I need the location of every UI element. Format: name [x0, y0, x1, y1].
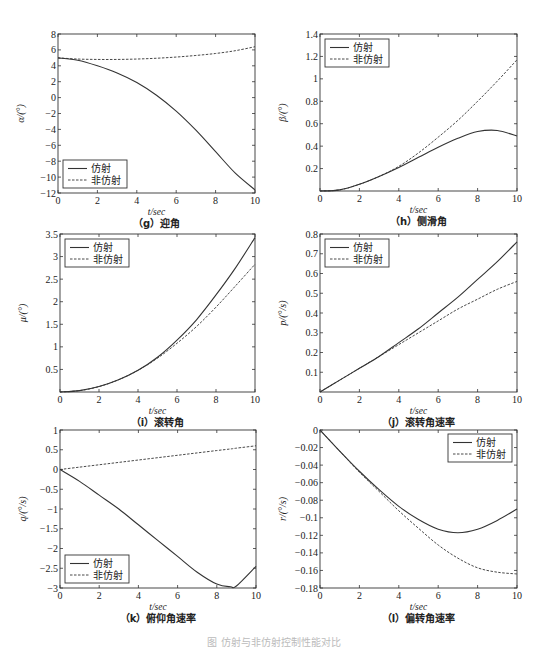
x-tick-label: 2: [97, 590, 102, 601]
subplot-caption: （l）偏转角速率: [382, 612, 455, 624]
y-tick-label: −3: [47, 583, 58, 594]
chart-k: 0246810−3−2.5−2−1.5−1−0.500.51t/secq/(°/…: [17, 425, 261, 625]
series-non-affine: [60, 264, 255, 392]
series-affine: [320, 130, 517, 191]
y-tick-label: 0.8: [306, 96, 319, 107]
y-axis-label: β/(°): [277, 103, 289, 123]
y-tick-label: −1.5: [40, 523, 58, 534]
x-tick-label: 2: [357, 394, 362, 405]
legend: 仿射非仿射: [63, 160, 127, 188]
y-tick-label: 0: [51, 92, 56, 103]
legend-label-non-affine: 非仿射: [91, 174, 121, 186]
y-axis-label: α/(°): [15, 103, 27, 122]
y-tick-label: −0.06: [295, 477, 318, 488]
legend-label-affine: 仿射: [353, 241, 373, 253]
x-tick-label: 0: [56, 195, 61, 206]
legend: 仿射非仿射: [325, 239, 389, 267]
y-tick-label: 1: [313, 73, 318, 84]
x-tick-label: 10: [250, 394, 260, 405]
x-tick-label: 10: [512, 590, 522, 601]
series-non-affine: [320, 60, 517, 191]
y-tick-label: 1.5: [46, 319, 59, 330]
subplot-caption: （k）俯仰角速率: [120, 612, 197, 624]
legend: 仿射非仿射: [65, 239, 129, 267]
y-tick-label: 2: [51, 76, 56, 87]
x-tick-label: 6: [175, 394, 180, 405]
x-tick-label: 6: [175, 590, 180, 601]
x-tick-label: 6: [436, 590, 441, 601]
y-axis-label: μ/(°): [17, 303, 29, 323]
y-tick-label: −12: [40, 188, 56, 199]
y-tick-label: −0.16: [295, 565, 318, 576]
y-tick-label: −4: [45, 124, 56, 135]
y-tick-label: −6: [45, 140, 56, 151]
x-tick-label: 8: [475, 394, 480, 405]
series-non-affine: [60, 446, 256, 470]
y-tick-label: 0.1: [306, 367, 319, 378]
y-tick-label: −0.5: [40, 484, 58, 495]
y-tick-label: −0.18: [295, 583, 318, 594]
subplot-caption: （j）滚转角速率: [382, 416, 455, 428]
x-tick-label: 0: [58, 590, 63, 601]
x-tick-label: 2: [357, 590, 362, 601]
x-tick-label: 2: [95, 195, 100, 206]
chart-j: 02468100.10.20.30.40.50.60.70.8t/secp/(°…: [277, 229, 522, 429]
x-tick-label: 4: [134, 195, 139, 206]
legend-label-non-affine: 非仿射: [353, 53, 383, 65]
x-tick-label: 8: [214, 590, 219, 601]
legend: 仿射非仿射: [448, 434, 512, 462]
series-non-affine: [320, 281, 517, 392]
y-tick-label: 6: [51, 44, 56, 55]
y-tick-label: −8: [45, 156, 56, 167]
legend-label-affine: 仿射: [353, 41, 373, 53]
y-tick-label: −10: [40, 172, 56, 183]
x-axis-label: t/sec: [148, 207, 166, 217]
y-tick-label: 0.4: [306, 141, 319, 152]
y-tick-label: 1: [53, 425, 58, 436]
y-tick-label: −0.14: [295, 547, 318, 558]
subplot-caption: （h）侧滑角: [390, 215, 447, 227]
y-tick-label: 0.8: [306, 229, 319, 240]
y-tick-label: −2.5: [40, 563, 58, 574]
x-tick-label: 6: [436, 193, 441, 204]
x-tick-label: 2: [97, 394, 102, 405]
y-tick-label: 0.2: [306, 163, 319, 174]
subplot-caption: （i）滚转角: [131, 416, 184, 428]
y-tick-label: 0.6: [306, 268, 319, 279]
chart-i: 02468100.511.522.533.5t/secμ/(°)（i）滚转角仿射…: [17, 229, 260, 429]
x-tick-label: 0: [58, 394, 63, 405]
x-tick-label: 8: [214, 394, 219, 405]
y-tick-label: −0.08: [295, 495, 318, 506]
y-tick-label: 1: [53, 341, 58, 352]
y-tick-label: 1.4: [306, 29, 319, 40]
legend-label-non-affine: 非仿射: [353, 253, 383, 265]
y-tick-label: −1: [47, 504, 58, 515]
y-tick-label: −2: [45, 108, 56, 119]
y-tick-label: 0.3: [306, 327, 319, 338]
x-tick-label: 10: [512, 394, 522, 405]
y-tick-label: 0.5: [46, 444, 59, 455]
y-tick-label: −0.1: [300, 512, 318, 523]
x-axis-label: t/sec: [149, 602, 167, 612]
y-tick-label: 0.2: [306, 347, 319, 358]
chart-g: 0246810−12−10−8−6−4−202468t/secα/(°)（g）迎…: [15, 29, 260, 230]
x-tick-label: 6: [174, 195, 179, 206]
y-axis-label: q/(°/s): [17, 496, 29, 522]
x-tick-label: 4: [136, 590, 141, 601]
legend: 仿射非仿射: [65, 555, 129, 583]
y-tick-label: 4: [51, 60, 56, 71]
figure-caption: 图 仿射与非仿射控制性能对比: [0, 634, 548, 648]
legend-label-affine: 仿射: [91, 162, 111, 174]
y-tick-label: 0: [313, 425, 318, 436]
y-tick-label: −0.04: [295, 460, 318, 471]
x-tick-label: 6: [436, 394, 441, 405]
y-tick-label: 8: [51, 29, 56, 40]
y-tick-label: 3: [53, 251, 58, 262]
series-non-affine: [58, 47, 255, 60]
x-axis-label: t/sec: [410, 205, 428, 215]
y-tick-label: 0.7: [306, 248, 319, 259]
x-axis-label: t/sec: [410, 602, 428, 612]
x-tick-label: 2: [357, 193, 362, 204]
y-tick-label: −0.02: [295, 442, 318, 453]
x-tick-label: 8: [475, 193, 480, 204]
